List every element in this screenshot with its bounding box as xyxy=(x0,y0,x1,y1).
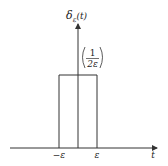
pulse-height-numerator: 1 xyxy=(90,48,96,58)
y-axis-label: δε(t) xyxy=(66,9,88,24)
x-axis-label: t xyxy=(151,150,155,160)
right-tick-label: ε xyxy=(95,150,100,160)
pulse-height-label: 1 2ε xyxy=(83,47,103,69)
pulse-height-denominator: 2ε xyxy=(86,59,98,69)
rectangular-pulse-diagram: δε(t) 1 2ε −ε ε t xyxy=(0,0,168,166)
left-tick-label: −ε xyxy=(53,150,66,160)
